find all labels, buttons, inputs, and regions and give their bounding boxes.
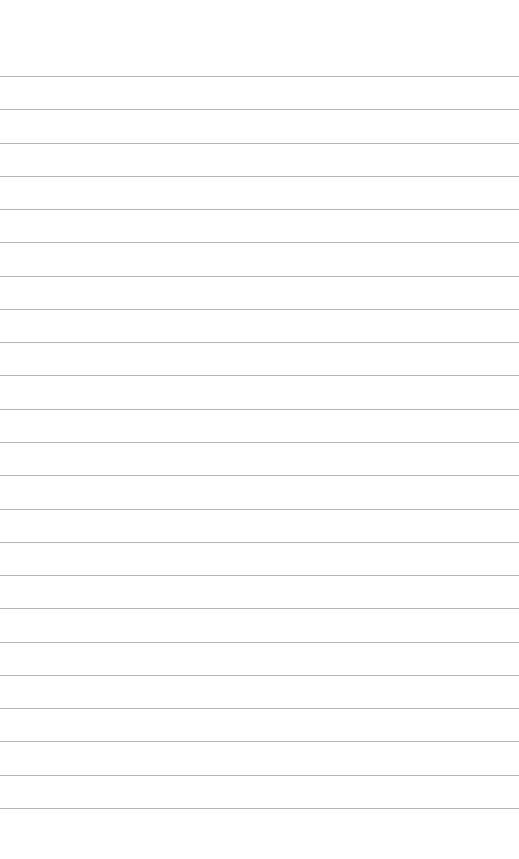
ruled-line <box>0 442 519 443</box>
ruled-line <box>0 808 519 809</box>
ruled-line <box>0 509 519 510</box>
ruled-line <box>0 375 519 376</box>
ruled-line <box>0 109 519 110</box>
ruled-line <box>0 775 519 776</box>
ruled-line <box>0 708 519 709</box>
ruled-line <box>0 575 519 576</box>
ruled-line <box>0 608 519 609</box>
ruled-line <box>0 242 519 243</box>
ruled-line <box>0 642 519 643</box>
ruled-line <box>0 475 519 476</box>
ruled-line <box>0 176 519 177</box>
ruled-line <box>0 409 519 410</box>
ruled-line <box>0 76 519 77</box>
ruled-line <box>0 741 519 742</box>
ruled-line <box>0 675 519 676</box>
ruled-line <box>0 542 519 543</box>
ruled-line <box>0 209 519 210</box>
ruled-line <box>0 276 519 277</box>
ruled-line <box>0 143 519 144</box>
ruled-line <box>0 309 519 310</box>
lined-paper-page <box>0 0 519 859</box>
ruled-line <box>0 342 519 343</box>
